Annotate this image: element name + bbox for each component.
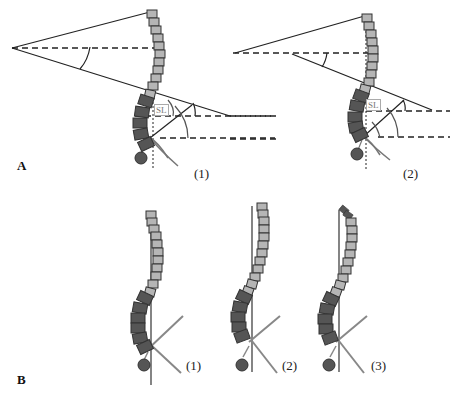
panel-a-case-2 — [230, 14, 450, 170]
case-label-b3: (3) — [371, 358, 386, 374]
sacral-line-label-a1: SL — [154, 104, 169, 116]
panel-b-case-2 — [231, 203, 280, 373]
case-label-a1: (1) — [194, 166, 209, 182]
panel-b-case-3 — [318, 205, 367, 373]
femoral-head-icon — [323, 359, 335, 371]
femoral-head-icon — [138, 359, 150, 371]
panel-b-case-1 — [131, 211, 183, 385]
femoral-head-icon — [236, 359, 248, 371]
spine-alignment-diagram — [0, 0, 467, 395]
panel-a-case-1 — [12, 10, 275, 170]
sacral-line-label-a2: SL — [366, 99, 381, 111]
spine-icon — [318, 205, 357, 345]
spine-icon — [131, 211, 163, 354]
spine-icon — [231, 203, 269, 343]
panel-label-a: A — [17, 158, 26, 174]
case-label-b1: (1) — [186, 358, 201, 374]
case-label-b2: (2) — [282, 358, 297, 374]
panel-label-b: B — [17, 372, 26, 388]
case-label-a2: (2) — [403, 166, 418, 182]
femoral-head-icon — [135, 152, 147, 164]
femoral-head-icon — [351, 148, 363, 160]
